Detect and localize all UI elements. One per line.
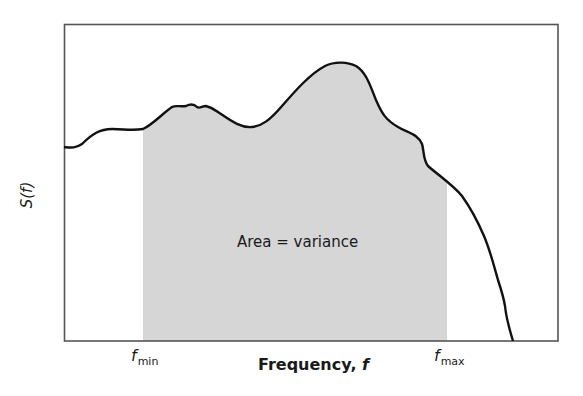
x-tick-fmax-sub: max (441, 355, 465, 368)
x-tick-fmax-base: f (434, 346, 440, 365)
x-tick-fmin-base: f (131, 346, 137, 365)
x-axis-label: Frequency, f (258, 355, 369, 374)
area-annotation: Area = variance (237, 233, 358, 251)
x-axis-label-text: Frequency, (258, 355, 362, 374)
x-axis-label-var: f (362, 355, 369, 374)
shaded-area (64, 63, 513, 341)
x-tick-fmin-sub: min (138, 355, 159, 368)
y-axis-label: S(f) (18, 182, 36, 209)
x-tick-fmax: fmax (434, 346, 465, 368)
x-tick-fmin: fmin (131, 346, 158, 368)
chart-plot (0, 0, 583, 396)
